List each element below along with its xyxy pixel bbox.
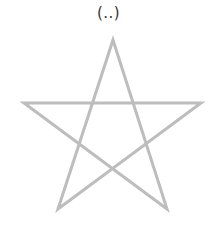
star-outline xyxy=(24,40,201,209)
pentagram-figure xyxy=(0,0,217,235)
